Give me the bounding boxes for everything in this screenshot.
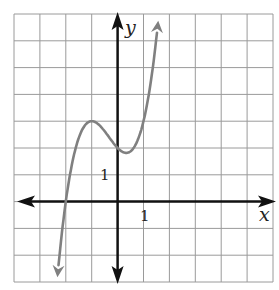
- grid: [14, 14, 273, 282]
- curve-arrow-down-icon: [53, 265, 65, 278]
- x-axis-label: x: [259, 203, 270, 225]
- y-tick-label-1: 1: [100, 166, 110, 184]
- y-axis-label: y: [124, 16, 136, 38]
- x-tick-label-1: 1: [140, 207, 150, 225]
- cubic-graph: y x 1 1: [0, 0, 279, 290]
